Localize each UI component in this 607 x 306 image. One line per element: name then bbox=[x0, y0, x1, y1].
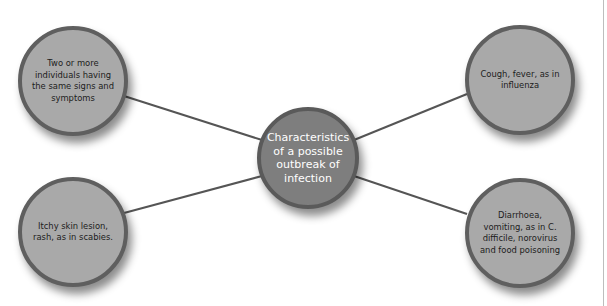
diagram-canvas: Two or more individuals having the same … bbox=[0, 0, 607, 306]
connector-bottom-left bbox=[124, 176, 262, 213]
node-bottom-left: Itchy skin lesion, rash, as in scabies. bbox=[18, 177, 128, 287]
node-label: Two or more individuals having the same … bbox=[22, 58, 124, 104]
node-label: Cough, fever, as in influenza bbox=[469, 69, 571, 92]
connector-top-right bbox=[354, 94, 467, 140]
connector-top-left bbox=[124, 96, 262, 140]
center-label: Characteristics of a possible outbreak o… bbox=[261, 131, 355, 185]
node-top-left: Two or more individuals having the same … bbox=[18, 26, 128, 136]
connector-bottom-right bbox=[354, 176, 467, 214]
right-border-line bbox=[603, 0, 604, 306]
node-center: Characteristics of a possible outbreak o… bbox=[257, 107, 359, 209]
node-top-right: Cough, fever, as in influenza bbox=[465, 25, 575, 135]
node-label: Diarrhoea, vomiting, as in C. difficile,… bbox=[469, 210, 571, 256]
node-label: Itchy skin lesion, rash, as in scabies. bbox=[22, 221, 124, 244]
node-bottom-right: Diarrhoea, vomiting, as in C. difficile,… bbox=[465, 178, 575, 288]
